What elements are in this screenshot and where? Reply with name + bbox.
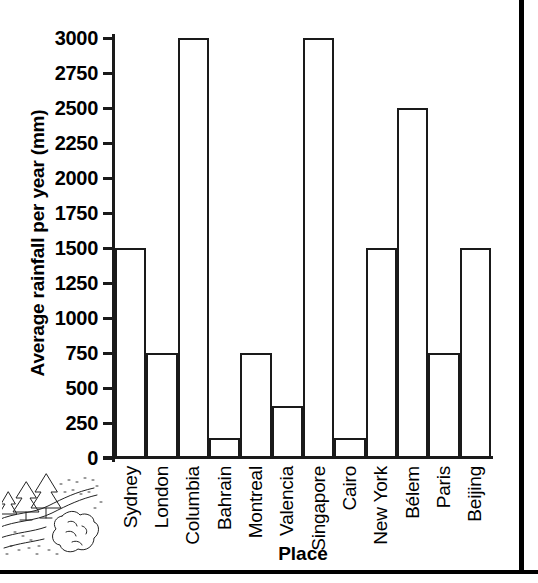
trees-river-rock-illustration [2,462,110,562]
bar-valencia[interactable] [272,406,303,458]
x-axis-tick-label-text: Sydney [120,466,142,528]
bar-paris[interactable] [428,353,459,458]
y-axis-tick [103,247,113,250]
y-axis-tick [103,107,113,110]
y-axis-tick [103,317,113,320]
rainfall-bar-chart: 0250500750100012501500175020002250250027… [0,0,520,574]
x-axis-tick-label-text: Columbia [182,466,204,545]
y-axis-tick [103,212,113,215]
bar-montreal[interactable] [240,353,271,458]
x-axis-tick-label-text: Cairo [339,466,361,510]
y-axis-tick [103,352,113,355]
x-axis-tick-label-text: London [151,466,173,528]
x-axis-tick-label-text: Beijing [464,466,486,522]
y-axis-tick [103,177,113,180]
y-axis-tick [103,72,113,75]
y-axis-tick [103,37,113,40]
y-axis-tick-label: 3000 [36,28,98,48]
bar-singapore[interactable] [303,38,334,458]
x-axis-tick-label-text: Bahrain [214,466,236,530]
bar-cairo[interactable] [334,438,365,458]
bar-columbia[interactable] [178,38,209,458]
x-axis-tick-label-text: Bélem [402,466,424,519]
x-axis-tick-label-text: Montreal [245,466,267,538]
x-axis-tick-label-text: Singapore [308,466,330,551]
x-axis-title: Place [115,543,491,565]
y-axis-tick [103,457,113,460]
y-axis-title: Average rainfall per year (mm) [27,93,49,393]
y-axis-tick [103,142,113,145]
y-axis-tick [103,282,113,285]
bar-sydney[interactable] [115,248,146,458]
bar-bélem[interactable] [397,108,428,458]
x-axis-tick-label-text: New York [370,466,392,545]
y-axis-tick-label: 250 [36,413,98,433]
y-axis-tick-label: 2750 [36,63,98,83]
y-axis-tick [103,387,113,390]
plot-area [115,38,491,458]
x-axis-tick-label-text: Paris [433,466,455,508]
x-axis-tick-label-text: Valencia [276,466,298,536]
bar-london[interactable] [146,353,177,458]
bar-new-york[interactable] [366,248,397,458]
bar-bahrain[interactable] [209,438,240,458]
bar-beijing[interactable] [460,248,491,458]
y-axis-tick [103,422,113,425]
